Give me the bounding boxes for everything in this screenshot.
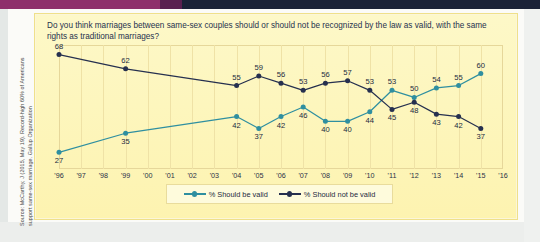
data-point-label: 40 [343, 125, 351, 134]
data-point-label: 37 [477, 132, 485, 141]
data-point-marker[interactable] [367, 88, 372, 93]
legend-swatch-icon-not-valid [279, 190, 301, 198]
x-axis-tick-98: '98 [99, 171, 108, 180]
data-point-label: 55 [232, 73, 240, 82]
data-point-label: 42 [277, 121, 285, 130]
x-axis-tick-12: '12 [410, 171, 419, 180]
x-axis-tick-07: '07 [299, 171, 308, 180]
data-point-marker[interactable] [345, 119, 350, 124]
data-point-label: 59 [255, 63, 263, 72]
figure-page: Source: McCarthy, J (2015, May 19). Reco… [0, 0, 540, 242]
data-point-label: 56 [321, 70, 329, 79]
legend-item-should-be-valid[interactable]: % Should be valid [184, 190, 268, 199]
data-point-label: 62 [121, 56, 129, 65]
data-point-label: 42 [232, 121, 240, 130]
x-axis-tick-labels: '96'97'98'99'00'01'02'03'04'05'06'07'08'… [59, 171, 503, 183]
plot-area: 2735423742464040445350545560686255595653… [59, 45, 503, 169]
data-point-label: 46 [299, 111, 307, 120]
source-credit-line-1: Source: McCarthy, J (2015, May 19). Reco… [19, 57, 25, 226]
data-point-marker[interactable] [478, 126, 483, 131]
data-point-marker[interactable] [301, 105, 306, 110]
data-point-marker[interactable] [456, 114, 461, 119]
data-point-marker[interactable] [456, 83, 461, 88]
page-top-band [0, 0, 540, 9]
data-point-marker[interactable] [434, 85, 439, 90]
data-point-marker[interactable] [412, 95, 417, 100]
page-edge-right [524, 9, 540, 242]
data-point-label: 40 [321, 125, 329, 134]
x-axis-tick-09: '09 [343, 171, 352, 180]
legend-item-should-not-be-valid[interactable]: % Should not be valid [279, 190, 376, 199]
data-point-label: 57 [343, 68, 351, 77]
data-point-label: 35 [121, 137, 129, 146]
x-axis-tick-01: '01 [165, 171, 174, 180]
chart-legend: % Should be valid % Should not be valid [166, 184, 393, 204]
data-point-label: 27 [55, 156, 63, 165]
x-axis-tick-03: '03 [210, 171, 219, 180]
source-credit-line-2: support same-sex marriage. Gallup Organi… [27, 106, 33, 226]
data-point-marker[interactable] [390, 107, 395, 112]
data-point-marker[interactable] [123, 131, 128, 136]
x-axis-tick-10: '10 [365, 171, 374, 180]
data-point-label: 68 [55, 42, 63, 51]
x-axis-tick-08: '08 [321, 171, 330, 180]
legend-swatch-icon-valid [184, 190, 206, 198]
data-point-marker[interactable] [323, 119, 328, 124]
page-edge-bottom [0, 222, 540, 242]
data-point-marker[interactable] [434, 112, 439, 117]
data-point-label: 45 [388, 113, 396, 122]
x-axis-tick-15: '15 [476, 171, 485, 180]
data-point-label: 37 [255, 132, 263, 141]
data-point-label: 42 [454, 121, 462, 130]
source-credit: Source: McCarthy, J (2015, May 19). Reco… [2, 18, 32, 218]
data-point-marker[interactable] [279, 114, 284, 119]
x-axis-tick-14: '14 [454, 171, 463, 180]
x-axis-tick-05: '05 [254, 171, 263, 180]
data-point-marker[interactable] [323, 81, 328, 86]
data-point-marker[interactable] [234, 114, 239, 119]
x-axis-tick-02: '02 [188, 171, 197, 180]
data-point-marker[interactable] [57, 52, 62, 57]
data-point-label: 44 [366, 116, 374, 125]
x-axis-tick-99: '99 [121, 171, 130, 180]
data-point-marker[interactable] [412, 100, 417, 105]
data-point-marker[interactable] [234, 83, 239, 88]
chart-title: Do you think marriages between same-sex … [47, 20, 499, 42]
x-axis-tick-96: '96 [54, 171, 63, 180]
chart-panel: Do you think marriages between same-sex … [34, 13, 518, 220]
data-point-label: 43 [432, 118, 440, 127]
x-axis-tick-16: '16 [498, 171, 507, 180]
data-point-label: 53 [366, 77, 374, 86]
data-point-marker[interactable] [345, 78, 350, 83]
data-point-marker[interactable] [279, 81, 284, 86]
data-point-marker[interactable] [367, 109, 372, 114]
data-point-marker[interactable] [256, 74, 261, 79]
data-point-marker[interactable] [478, 71, 483, 76]
legend-label-valid: % Should be valid [209, 190, 268, 199]
x-axis-tick-06: '06 [276, 171, 285, 180]
data-point-marker[interactable] [390, 88, 395, 93]
page-top-band-accent [0, 0, 160, 9]
data-point-marker[interactable] [57, 150, 62, 155]
x-axis-tick-97: '97 [77, 171, 86, 180]
data-point-label: 53 [299, 77, 307, 86]
data-point-label: 55 [454, 73, 462, 82]
legend-label-not-valid: % Should not be valid [304, 190, 376, 199]
x-axis-tick-00: '00 [143, 171, 152, 180]
data-point-marker[interactable] [256, 126, 261, 131]
x-axis-tick-13: '13 [432, 171, 441, 180]
x-axis-tick-11: '11 [388, 171, 397, 180]
data-point-label: 53 [388, 77, 396, 86]
data-point-label: 56 [277, 70, 285, 79]
page-top-band-accent-secondary [160, 0, 182, 9]
data-point-marker[interactable] [301, 88, 306, 93]
data-point-label: 48 [410, 106, 418, 115]
data-point-marker[interactable] [123, 66, 128, 71]
x-axis-tick-04: '04 [232, 171, 241, 180]
data-point-label: 54 [432, 75, 440, 84]
data-point-label: 60 [477, 61, 485, 70]
data-point-label: 50 [410, 84, 418, 93]
